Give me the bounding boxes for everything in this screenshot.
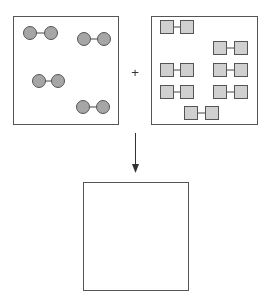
- atom-square: [161, 86, 174, 99]
- atom-square: [161, 64, 174, 77]
- atom-circle: [45, 27, 58, 40]
- atom-square: [161, 21, 174, 34]
- atom-square: [181, 21, 194, 34]
- atom-square: [235, 86, 248, 99]
- atom-circle: [77, 101, 90, 114]
- atom-square: [214, 86, 227, 99]
- atom-square: [214, 42, 227, 55]
- atom-square: [235, 64, 248, 77]
- down-arrow-icon: [132, 133, 139, 173]
- reaction-diagram: +: [0, 0, 270, 298]
- atom-square: [181, 86, 194, 99]
- atom-square: [206, 107, 219, 120]
- atom-circle: [52, 75, 65, 88]
- atom-square: [214, 64, 227, 77]
- atom-square: [235, 42, 248, 55]
- atom-square: [181, 64, 194, 77]
- atom-circle: [98, 33, 111, 46]
- atom-circle: [24, 27, 37, 40]
- atom-circle: [78, 33, 91, 46]
- plus-sign: +: [131, 65, 139, 80]
- product-box: [84, 183, 189, 291]
- atom-circle: [97, 101, 110, 114]
- atom-circle: [33, 75, 46, 88]
- atom-square: [185, 107, 198, 120]
